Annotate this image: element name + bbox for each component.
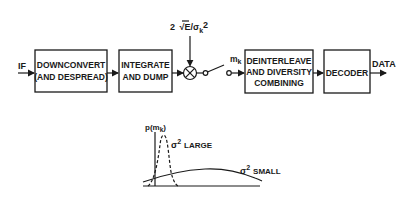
- weight-label: 2 √E/σk2: [170, 20, 208, 34]
- block-deinterleave-line2: AND DIVERSITY: [246, 67, 312, 77]
- block-diagram: IF DOWNCONVERT (AND DESPREAD) INTEGRATE …: [0, 0, 412, 198]
- mk-label: mk: [230, 54, 242, 65]
- block-decoder: DECODER: [324, 50, 370, 93]
- label-sigma2-large: σ2LARGE: [171, 138, 213, 150]
- input-label: IF: [18, 61, 27, 71]
- pdf-plot: p(mk) σ2LARGE σ2SMALL: [143, 123, 281, 186]
- output-label: DATA: [372, 59, 396, 69]
- block-decoder-line1: DECODER: [326, 68, 369, 78]
- block-integrate-dump: INTEGRATE AND DUMP: [119, 50, 172, 92]
- block-deinterleave-line1: DEINTERLEAVE: [246, 56, 311, 66]
- block-deinterleave-line3: COMBINING: [254, 78, 304, 88]
- block-downconvert: DOWNCONVERT (AND DESPREAD): [34, 50, 108, 92]
- label-sigma2-small: σ2SMALL: [240, 164, 281, 176]
- block-downconvert-line1: DOWNCONVERT: [37, 60, 106, 70]
- block-deinterleave: DEINTERLEAVE AND DIVERSITY COMBINING: [245, 50, 313, 93]
- block-integrate-line2: AND DUMP: [123, 72, 169, 82]
- block-downconvert-line2: (AND DESPREAD): [34, 72, 108, 82]
- block-integrate-line1: INTEGRATE: [121, 60, 170, 70]
- plot-y-label: p(mk): [145, 123, 166, 133]
- multiplier-icon: [184, 67, 197, 80]
- switch-icon: [203, 65, 231, 75]
